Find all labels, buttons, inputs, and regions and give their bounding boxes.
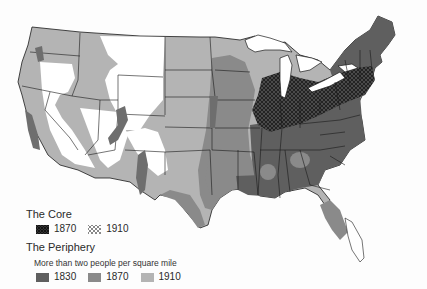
dense-crosshatch-swatch-icon — [36, 225, 49, 234]
legend-core-1910-label: 1910 — [106, 223, 128, 235]
legend-periphery-items: 1830 1870 1910 — [36, 271, 226, 283]
legend-core-title: The Core — [26, 208, 226, 221]
florida-unsettled — [345, 218, 364, 262]
legend-periphery-1910-label: 1910 — [159, 271, 181, 283]
light-gray-swatch-icon — [141, 273, 154, 282]
legend-core-1870-label: 1870 — [54, 223, 76, 235]
legend-periphery-1870: 1870 — [88, 271, 128, 283]
legend-periphery-1830: 1830 — [36, 271, 76, 283]
dark-gray-swatch-icon — [36, 273, 49, 282]
legend-core-items: 1870 1910 — [36, 223, 226, 235]
legend-core-1870: 1870 — [36, 223, 76, 235]
legend-core-1910: 1910 — [88, 223, 128, 235]
medium-gray-swatch-icon — [88, 273, 101, 282]
legend-periphery-1830-label: 1830 — [54, 271, 76, 283]
legend-periphery-subtitle: More than two people per square mile — [34, 258, 226, 269]
legend-periphery-1910: 1910 — [141, 271, 181, 283]
legend-periphery-title: The Periphery — [26, 241, 226, 254]
legend-periphery-1870-label: 1870 — [106, 271, 128, 283]
map-legend: The Core 1870 1910 The Periphery More th… — [26, 208, 226, 283]
light-crosshatch-swatch-icon — [88, 225, 101, 234]
